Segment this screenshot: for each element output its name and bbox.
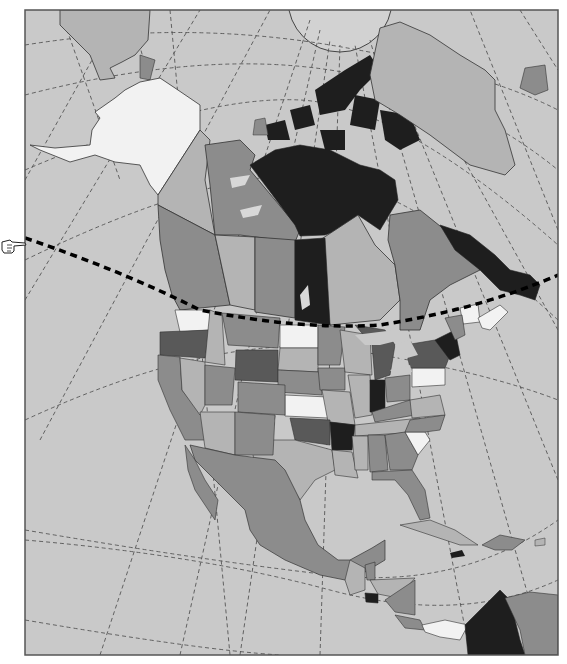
region-iowa xyxy=(318,368,345,390)
region-utah xyxy=(205,365,235,405)
pointing-hand-icon xyxy=(0,236,28,256)
region-belize xyxy=(365,562,375,580)
region-arkansas xyxy=(330,422,355,450)
region-colorado xyxy=(238,382,285,415)
region-pennsylvania xyxy=(412,368,445,387)
region-manitoba xyxy=(295,238,330,325)
region-new-mexico xyxy=(235,412,275,455)
region-el-salvador xyxy=(365,593,378,603)
region-kansas xyxy=(285,395,328,418)
map-canvas xyxy=(0,0,567,664)
region-saskatchewan xyxy=(255,237,295,318)
north-america-map xyxy=(0,0,567,664)
region-south-dakota xyxy=(278,348,318,372)
region-north-dakota xyxy=(280,325,318,348)
region-mississippi xyxy=(352,436,368,470)
region-washington xyxy=(175,310,210,332)
region-wyoming xyxy=(235,350,278,382)
region-ohio xyxy=(385,375,410,402)
region-indiana xyxy=(370,380,385,412)
region-oregon xyxy=(160,330,210,358)
region-alabama xyxy=(368,435,388,472)
